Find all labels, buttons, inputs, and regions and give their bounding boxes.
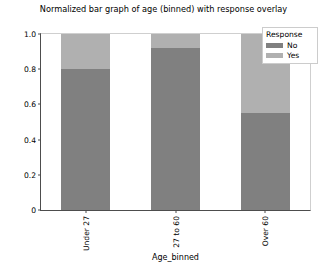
legend-title: Response (266, 30, 314, 39)
y-tick-label: 1.0 (24, 30, 41, 39)
y-tick-label: 0.2 (24, 170, 41, 179)
legend: Response NoYes (262, 27, 318, 64)
legend-entry[interactable]: No (266, 40, 314, 50)
x-tick-mark (265, 210, 266, 213)
bar-stack[interactable] (151, 34, 200, 210)
x-tick-label: Over 60 (261, 216, 270, 246)
x-tick-label: Under 27 (82, 216, 91, 251)
legend-entry[interactable]: Yes (266, 50, 314, 60)
legend-swatch (266, 43, 283, 48)
bar-segment-yes[interactable] (61, 34, 110, 69)
y-tick-label: 0 (31, 206, 41, 215)
bar-segment-no[interactable] (61, 69, 110, 210)
legend-entries: NoYes (266, 40, 314, 60)
bar-segment-no[interactable] (151, 48, 200, 210)
chart-title: Normalized bar graph of age (binned) wit… (0, 4, 327, 14)
x-tick-label: 27 to 60 (172, 216, 181, 248)
y-tick-label: 0.6 (24, 100, 41, 109)
x-tick-mark (85, 210, 86, 213)
x-tick-mark (175, 210, 176, 213)
bar-stack[interactable] (61, 34, 110, 210)
legend-swatch (266, 53, 283, 58)
bar-segment-yes[interactable] (151, 34, 200, 48)
legend-label: No (287, 41, 297, 50)
y-tick-label: 0.8 (24, 65, 41, 74)
x-axis-label: Age_binned (40, 253, 311, 262)
y-tick-label: 0.4 (24, 135, 41, 144)
bar-segment-no[interactable] (241, 113, 290, 210)
legend-label: Yes (287, 51, 299, 60)
matplotlib-figure: Normalized bar graph of age (binned) wit… (0, 0, 327, 275)
